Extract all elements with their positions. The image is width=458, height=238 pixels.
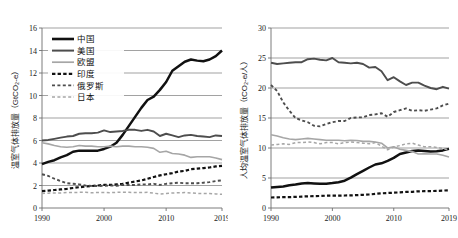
y-tick-label: 15 [258, 114, 266, 123]
legend-label-俄罗斯: 俄罗斯 [77, 81, 104, 91]
series-line-印度 [42, 166, 222, 191]
chart-panel-percapita: 0510152025301990200020102019人均温室气体排放量（tC… [229, 0, 458, 238]
x-tick-label: 1990 [34, 214, 50, 223]
y-axis-title: 温室气体排放量（GtCO₂-e） [10, 67, 20, 170]
legend-label-印度: 印度 [77, 69, 95, 79]
series-line-日本 [42, 192, 222, 194]
legend-label-日本: 日本 [77, 92, 95, 102]
series-line-中国 [271, 149, 449, 188]
x-tick-label: 2019 [441, 214, 457, 223]
y-tick-label: 12 [29, 69, 37, 78]
y-tick-label: 5 [262, 174, 266, 183]
series-line-欧盟 [271, 135, 449, 157]
y-tick-label: 25 [258, 54, 266, 63]
legend-label-欧盟: 欧盟 [77, 57, 95, 67]
series-line-欧盟 [42, 143, 222, 160]
x-tick-label: 2010 [158, 214, 174, 223]
per-capita-emissions-chart: 0510152025301990200020102019人均温室气体排放量（tC… [229, 0, 458, 238]
y-tick-label: 8 [33, 114, 37, 123]
y-tick-label: 0 [33, 204, 37, 213]
chart-panel-total: 02468101214161990200020102019温室气体排放量（GtC… [0, 0, 229, 238]
series-line-美国 [42, 130, 222, 141]
x-tick-label: 2019 [214, 214, 228, 223]
series-line-俄罗斯 [271, 85, 449, 126]
x-tick-label: 2010 [385, 214, 401, 223]
y-axis-title: 人均温室气体排放量（tCO₂-e/人） [239, 57, 249, 180]
x-tick-label: 2000 [96, 214, 112, 223]
series-line-美国 [271, 58, 449, 89]
y-tick-label: 0 [262, 204, 266, 213]
y-tick-label: 2 [33, 182, 37, 191]
x-tick-label: 1990 [263, 214, 279, 223]
x-tick-label: 2000 [324, 214, 340, 223]
legend-label-中国: 中国 [77, 34, 95, 44]
series-line-印度 [271, 190, 449, 197]
y-tick-label: 16 [29, 24, 37, 33]
y-tick-label: 20 [258, 84, 266, 93]
total-emissions-chart: 02468101214161990200020102019温室气体排放量（GtC… [0, 0, 228, 238]
y-tick-label: 4 [33, 159, 37, 168]
legend-label-美国: 美国 [77, 46, 95, 56]
y-tick-label: 30 [258, 24, 266, 33]
y-tick-label: 10 [258, 144, 266, 153]
y-tick-label: 6 [33, 137, 37, 146]
series-line-日本 [271, 142, 449, 150]
series-line-俄罗斯 [42, 174, 222, 186]
y-tick-label: 14 [29, 47, 37, 56]
y-tick-label: 10 [29, 92, 37, 101]
